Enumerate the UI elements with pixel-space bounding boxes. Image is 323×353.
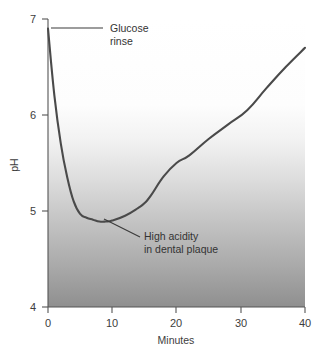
ph-plaque-chart: 7 6 5 4 0 10 20 30 40 Minutes pH Glucose… [0,0,323,353]
y-axis-title: pH [8,158,20,171]
y-tick-label-4: 4 [30,301,36,313]
chart-canvas: 7 6 5 4 0 10 20 30 40 Minutes pH Glucose… [0,0,323,353]
y-tick-label-5: 5 [30,205,36,217]
glucose-rinse-label-line2: rinse [110,35,133,47]
x-axis [48,307,305,313]
x-tick-label-40: 40 [299,317,311,329]
x-tick-labels: 0 10 20 30 40 [45,317,311,329]
high-acidity-label-line1: High acidity [144,230,199,242]
y-tick-label-6: 6 [30,109,36,121]
x-tick-label-10: 10 [106,317,118,329]
y-tick-label-7: 7 [30,13,36,25]
x-axis-title: Minutes [158,334,195,346]
high-acidity-label-line2: in dental plaque [144,243,218,255]
x-tick-label-30: 30 [235,317,247,329]
y-axis [42,19,48,307]
glucose-rinse-label-line1: Glucose [110,22,149,34]
y-tick-labels: 7 6 5 4 [30,13,36,313]
x-tick-label-20: 20 [170,317,182,329]
x-tick-label-0: 0 [45,317,51,329]
